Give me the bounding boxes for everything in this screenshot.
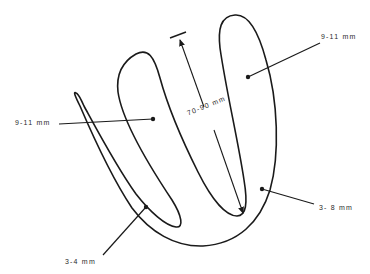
diagram-canvas: 9-11 mm 9-11 mm 3- 8 mm 3-4 mm 70-90 mm <box>0 0 370 274</box>
label-right-bottom-thickness: 3- 8 mm <box>319 204 353 211</box>
label-bottom-left-thickness: 3-4 mm <box>65 258 96 265</box>
label-left-thickness: 9-11 mm <box>15 119 51 126</box>
leader-dot-right-bottom <box>260 187 264 191</box>
leader-dot-left <box>151 117 155 121</box>
length-arrow-lower <box>214 130 243 213</box>
length-end-bar <box>170 32 186 38</box>
leader-dot-bottom-left <box>144 205 148 209</box>
leader-top-right <box>248 43 320 77</box>
length-arrow-upper <box>180 40 204 107</box>
leader-right-bottom <box>262 189 314 204</box>
label-top-right-thickness: 9-11 mm <box>321 33 357 40</box>
organ-outline-path <box>75 15 277 246</box>
leader-dot-top-right <box>246 75 250 79</box>
folded-organ-outline <box>0 0 370 274</box>
leader-left <box>59 119 153 124</box>
leader-bottom-left <box>103 207 146 255</box>
